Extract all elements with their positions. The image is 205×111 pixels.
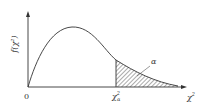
chi-square-diagram: f(χ²) α 0 χ2α χ2: [0, 0, 205, 111]
rejection-region: [116, 55, 180, 88]
area-label: α: [151, 57, 157, 66]
origin-label: 0: [24, 92, 29, 101]
y-axis-arrow-icon: [26, 11, 30, 17]
y-axis-label: f(χ²): [10, 35, 19, 53]
x-axis-arrow-icon: [181, 85, 187, 89]
y-axis: [26, 11, 30, 87]
critical-value-label: χ2α: [111, 90, 121, 102]
x-axis-label: χ2: [186, 91, 195, 102]
